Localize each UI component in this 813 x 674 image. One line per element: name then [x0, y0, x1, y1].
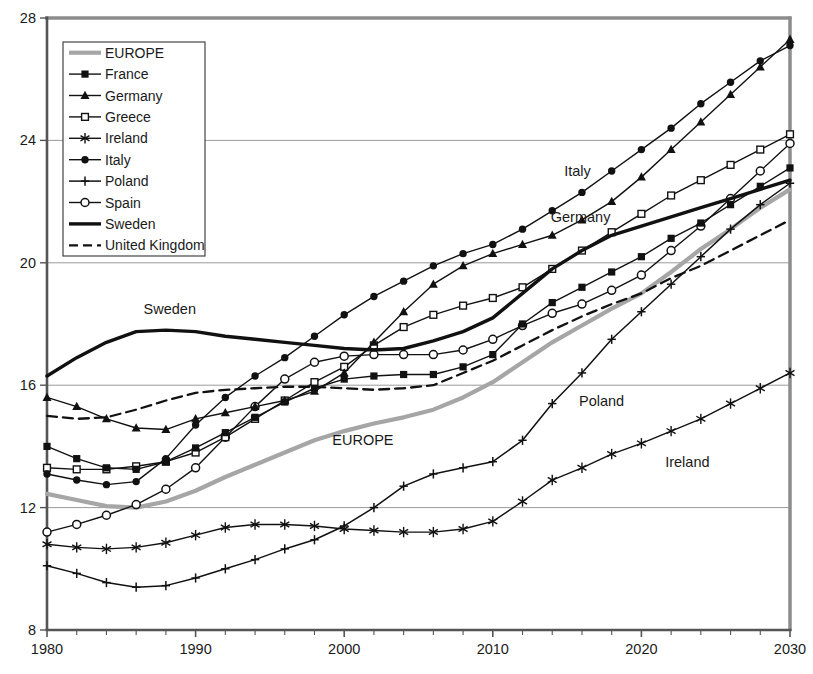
inline-label-italy: Italy — [564, 163, 591, 179]
legend-label-france: France — [105, 66, 149, 82]
legend-label-united-kingdom: United Kingdom — [105, 237, 205, 253]
x-tick-label-1990: 1990 — [179, 641, 211, 657]
x-tick-label-2000: 2000 — [328, 641, 360, 657]
legend-label-poland: Poland — [105, 173, 149, 189]
chart-canvas: 81216202428198019902000201020202030Swede… — [0, 0, 813, 674]
legend: EUROPEFranceGermanyGreeceIrelandItalyPol… — [63, 42, 205, 256]
inline-label-germany: Germany — [551, 209, 611, 225]
y-tick-label-28: 28 — [20, 10, 36, 26]
y-tick-label-12: 12 — [20, 500, 36, 516]
line-chart-figure: 81216202428198019902000201020202030Swede… — [0, 0, 813, 674]
legend-label-europe: EUROPE — [105, 45, 164, 61]
y-tick-label-20: 20 — [20, 255, 36, 271]
y-tick-label-24: 24 — [20, 132, 36, 148]
y-tick-label-16: 16 — [20, 377, 36, 393]
x-tick-label-2020: 2020 — [625, 641, 657, 657]
inline-label-sweden: Sweden — [144, 301, 196, 317]
legend-label-germany: Germany — [105, 88, 163, 104]
legend-marker-france-filled-square-icon — [81, 71, 88, 78]
inline-label-ireland: Ireland — [665, 454, 709, 470]
y-tick-label-8: 8 — [28, 622, 36, 638]
x-tick-label-1980: 1980 — [31, 641, 63, 657]
legend-label-italy: Italy — [105, 152, 131, 168]
legend-label-ireland: Ireland — [105, 130, 148, 146]
legend-label-greece: Greece — [105, 109, 151, 125]
legend-marker-greece-open-square-icon — [82, 114, 89, 121]
inline-label-europe: EUROPE — [332, 432, 394, 448]
legend-label-sweden: Sweden — [105, 216, 156, 232]
legend-marker-italy-filled-circle-icon — [81, 156, 88, 163]
legend-marker-spain-open-circle-icon — [81, 199, 89, 207]
x-tick-label-2030: 2030 — [774, 641, 806, 657]
legend-label-spain: Spain — [105, 195, 141, 211]
x-tick-label-2010: 2010 — [477, 641, 509, 657]
inline-label-poland: Poland — [579, 393, 624, 409]
